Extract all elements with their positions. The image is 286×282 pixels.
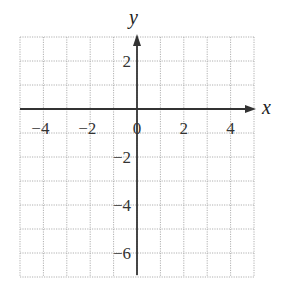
y-tick-label: −6 [113, 244, 131, 263]
y-tick-label: 2 [123, 52, 132, 71]
x-tick-label: −4 [31, 119, 50, 138]
y-tick-label: −2 [113, 148, 131, 167]
axes [20, 34, 256, 275]
y-axis-label: y [127, 6, 138, 29]
y-axis-arrow-icon [133, 34, 141, 46]
x-tick-label: −2 [78, 119, 96, 138]
x-tick-label: 4 [226, 119, 235, 138]
x-axis-label: x [261, 96, 271, 118]
x-tick-label: 2 [180, 119, 189, 138]
y-tick-label: −4 [113, 196, 132, 215]
coordinate-plane: −4−20242−2−4−6 x y [0, 0, 286, 282]
x-tick-label: 0 [133, 119, 142, 138]
